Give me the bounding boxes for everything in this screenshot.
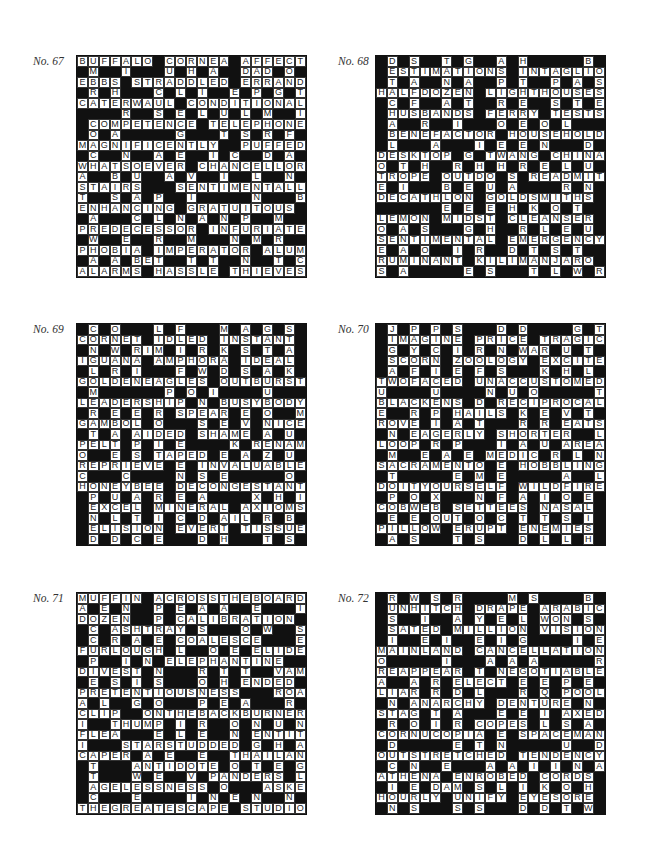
- letter-cell: I: [77, 356, 88, 367]
- black-square: [142, 214, 153, 225]
- black-square: [441, 440, 452, 451]
- letter-cell: F: [77, 646, 88, 657]
- letter-cell: E: [507, 235, 518, 246]
- letter-cell: I: [387, 524, 398, 535]
- letter-cell: O: [496, 119, 507, 130]
- black-square: [420, 266, 431, 277]
- letter-cell: T: [229, 266, 240, 277]
- letter-cell: E: [251, 730, 262, 741]
- letter-cell: N: [539, 256, 550, 267]
- letter-cell: C: [153, 88, 164, 99]
- letter-cell: S: [561, 503, 572, 514]
- black-square: [441, 161, 452, 172]
- letter-cell: I: [398, 646, 409, 657]
- letter-cell: E: [295, 524, 306, 535]
- letter-cell: C: [164, 593, 175, 604]
- letter-cell: T: [131, 513, 142, 524]
- letter-cell: N: [420, 214, 431, 225]
- black-square: [583, 119, 594, 130]
- letter-cell: E: [131, 803, 142, 814]
- letter-cell: T: [550, 109, 561, 120]
- letter-cell: D: [175, 761, 186, 772]
- black-square: [550, 740, 561, 751]
- black-square: [474, 387, 485, 398]
- letter-cell: P: [208, 772, 219, 783]
- black-square: [485, 730, 496, 741]
- letter-cell: Y: [430, 793, 441, 804]
- black-square: [262, 635, 273, 646]
- letter-cell: C: [77, 751, 88, 762]
- black-square: [507, 803, 518, 814]
- letter-cell: E: [142, 256, 153, 267]
- letter-cell: O: [142, 56, 153, 67]
- letter-cell: H: [229, 593, 240, 604]
- letter-cell: T: [153, 256, 164, 267]
- black-square: [99, 719, 110, 730]
- letter-cell: R: [153, 492, 164, 503]
- black-square: [142, 730, 153, 741]
- letter-cell: G: [463, 151, 474, 162]
- letter-cell: T: [99, 98, 110, 109]
- letter-cell: S: [583, 193, 594, 204]
- black-square: [594, 56, 605, 67]
- letter-cell: A: [164, 77, 175, 88]
- letter-cell: K: [284, 366, 295, 377]
- black-square: [420, 656, 431, 667]
- letter-cell: O: [528, 387, 539, 398]
- letter-cell: R: [496, 398, 507, 409]
- letter-cell: U: [398, 109, 409, 120]
- black-square: [376, 761, 387, 772]
- black-square: [496, 235, 507, 246]
- letter-cell: N: [219, 482, 230, 493]
- black-square: [142, 534, 153, 545]
- black-square: [463, 709, 474, 720]
- black-square: [430, 656, 441, 667]
- letter-cell: D: [594, 709, 605, 720]
- letter-cell: N: [452, 235, 463, 246]
- letter-cell: D: [507, 245, 518, 256]
- black-square: [186, 604, 197, 615]
- black-square: [153, 366, 164, 377]
- letter-cell: N: [463, 772, 474, 783]
- letter-cell: E: [77, 77, 88, 88]
- black-square: [518, 245, 529, 256]
- letter-cell: N: [561, 614, 572, 625]
- letter-cell: S: [376, 709, 387, 720]
- letter-cell: E: [583, 377, 594, 388]
- letter-cell: A: [583, 730, 594, 741]
- black-square: [197, 67, 208, 78]
- letter-cell: A: [131, 356, 142, 367]
- black-square: [539, 203, 550, 214]
- letter-cell: O: [99, 119, 110, 130]
- black-square: [594, 698, 605, 709]
- letter-cell: E: [561, 109, 572, 120]
- letter-cell: Q: [539, 688, 550, 699]
- black-square: [463, 119, 474, 130]
- letter-cell: S: [430, 593, 441, 604]
- black-square: [441, 593, 452, 604]
- letter-cell: F: [496, 482, 507, 493]
- letter-cell: O: [518, 429, 529, 440]
- letter-cell: P: [197, 698, 208, 709]
- black-square: [295, 214, 306, 225]
- black-square: [539, 182, 550, 193]
- letter-cell: H: [208, 429, 219, 440]
- letter-cell: N: [463, 88, 474, 99]
- letter-cell: F: [409, 98, 420, 109]
- letter-cell: E: [197, 730, 208, 741]
- letter-cell: N: [583, 698, 594, 709]
- letter-cell: A: [219, 356, 230, 367]
- letter-cell: N: [387, 803, 398, 814]
- letter-cell: T: [430, 604, 441, 615]
- black-square: [197, 646, 208, 657]
- letter-cell: E: [572, 214, 583, 225]
- black-square: [376, 324, 387, 335]
- letter-cell: T: [485, 151, 496, 162]
- letter-cell: A: [376, 772, 387, 783]
- letter-cell: E: [430, 667, 441, 678]
- black-square: [430, 56, 441, 67]
- letter-cell: N: [229, 730, 240, 741]
- black-square: [208, 193, 219, 204]
- letter-cell: R: [583, 214, 594, 225]
- letter-cell: S: [387, 614, 398, 625]
